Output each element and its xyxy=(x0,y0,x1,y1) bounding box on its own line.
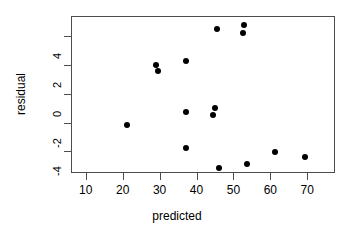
y-axis-tick xyxy=(64,151,71,152)
data-point xyxy=(183,58,189,64)
data-point xyxy=(302,154,308,160)
data-point xyxy=(272,149,278,155)
data-point xyxy=(210,112,216,118)
y-axis-tick xyxy=(64,36,71,37)
x-axis-tick-label: 40 xyxy=(177,183,217,197)
x-axis-tick xyxy=(123,173,124,180)
data-point xyxy=(124,122,130,128)
x-axis-tick xyxy=(233,173,234,180)
x-axis-tick-label: 50 xyxy=(213,183,253,197)
x-axis-tick xyxy=(160,173,161,180)
x-axis-tick xyxy=(197,173,198,180)
x-axis-tick-label: 20 xyxy=(103,183,143,197)
x-axis-tick xyxy=(307,173,308,180)
data-point xyxy=(241,22,247,28)
data-point xyxy=(183,109,189,115)
data-point xyxy=(214,26,220,32)
data-points-layer xyxy=(72,17,334,172)
x-axis-tick-label: 10 xyxy=(66,183,106,197)
x-axis-tick xyxy=(270,173,271,180)
y-axis-tick xyxy=(64,65,71,66)
data-point xyxy=(155,68,161,74)
x-axis-tick xyxy=(86,173,87,180)
residual-vs-predicted-scatter-plot: residual 420-2-4 10203040506070 predicte… xyxy=(0,0,354,239)
data-point xyxy=(244,161,250,167)
data-point xyxy=(183,145,189,151)
data-point xyxy=(212,105,218,111)
y-axis-tick xyxy=(64,123,71,124)
x-axis-tick-label: 60 xyxy=(250,183,290,197)
y-axis-tick xyxy=(64,94,71,95)
x-axis-tick-label: 70 xyxy=(287,183,327,197)
x-axis-title: predicted xyxy=(0,209,354,223)
y-axis-title: residual xyxy=(14,34,28,154)
plot-area xyxy=(71,16,335,173)
data-point xyxy=(153,62,159,68)
data-point xyxy=(216,165,222,171)
y-axis-tick-label: -4 xyxy=(51,151,65,191)
x-axis-tick-label: 30 xyxy=(140,183,180,197)
data-point xyxy=(240,30,246,36)
